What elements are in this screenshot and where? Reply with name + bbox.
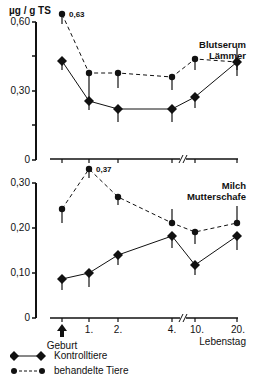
x-axis-label: Lebenstag <box>199 336 246 347</box>
birth-arrow-icon <box>57 324 67 337</box>
y-unit-label: µg / g TS <box>9 5 51 16</box>
legend-item-control: Kontrolltiere <box>10 348 129 363</box>
diamond-line-icon <box>10 350 46 362</box>
panel-milch: 0,30 0,20 0,10 0 1. 2. 4. 10. 20. Lebens… <box>11 165 247 351</box>
chart-figure: µg / g TS 0,60 0,30 0 Blutserum Lämmer <box>0 0 258 384</box>
legend-item-treated: behandelte Tiere <box>10 363 129 378</box>
circle-dashed-line-icon <box>10 365 46 377</box>
panel-title: Mutterschafe <box>187 191 246 202</box>
panel-blutserum: µg / g TS 0,60 0,30 0 Blutserum Lämmer <box>9 5 246 165</box>
legend-label: Kontrolltiere <box>54 350 107 361</box>
panel-title: Blutserum <box>199 39 246 50</box>
annotation: 0,37 <box>96 165 112 174</box>
y-tick: 0,60 <box>11 16 31 27</box>
x-tick: 20. <box>231 324 245 335</box>
x-tick: 2. <box>114 324 122 335</box>
x-tick: 10. <box>190 324 204 335</box>
panel-title: Lämmer <box>209 50 246 61</box>
y-tick: 0,20 <box>11 222 31 233</box>
legend: Kontrolltiere behandelte Tiere <box>10 348 129 378</box>
y-tick: 0,30 <box>11 85 31 96</box>
y-tick: 0 <box>24 154 30 165</box>
panel-title: Milch <box>222 180 246 191</box>
y-tick: 0,10 <box>11 267 31 278</box>
annotation: 0,63 <box>69 10 85 19</box>
x-tick: 4. <box>168 324 176 335</box>
legend-label: behandelte Tiere <box>54 365 129 376</box>
y-tick: 0,30 <box>11 177 31 188</box>
x-tick: 1. <box>85 324 93 335</box>
y-tick: 0 <box>24 312 30 323</box>
